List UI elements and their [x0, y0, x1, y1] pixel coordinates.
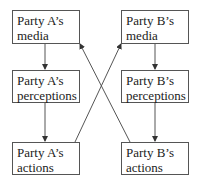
box-label-line1: Party B’s	[126, 13, 188, 28]
box-label-line1: Party B’s	[126, 73, 188, 88]
box-party-b-perceptions: Party B’s perceptions	[121, 70, 189, 103]
box-label-line2: perceptions	[126, 88, 188, 103]
box-label-line1: Party A’s	[17, 73, 79, 88]
box-label-line2: actions	[126, 160, 188, 175]
box-party-b-actions: Party B’s actions	[121, 142, 189, 175]
box-party-b-media: Party B’s media	[121, 10, 189, 44]
box-label-line2: perceptions	[17, 88, 79, 103]
box-label-line2: media	[126, 28, 188, 43]
box-party-a-actions: Party A’s actions	[12, 142, 80, 175]
box-label-line1: Party A’s	[17, 145, 79, 160]
box-party-a-perceptions: Party A’s perceptions	[12, 70, 80, 103]
box-label-line2: media	[17, 28, 79, 43]
box-label-line2: actions	[17, 160, 79, 175]
box-label-line1: Party B’s	[126, 145, 188, 160]
box-party-a-media: Party A’s media	[12, 10, 80, 44]
box-label-line1: Party A’s	[17, 13, 79, 28]
arrow-a-actions-to-b-media	[75, 44, 121, 142]
